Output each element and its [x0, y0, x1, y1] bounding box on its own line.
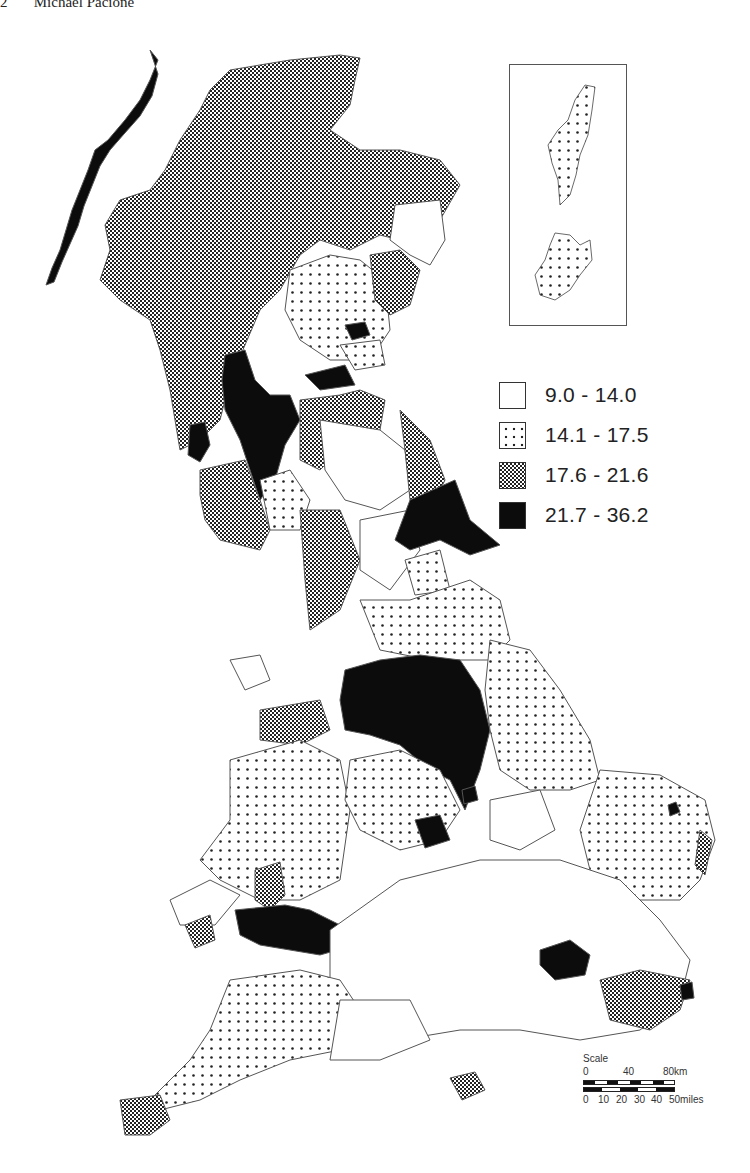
region-anglesey	[230, 655, 270, 690]
legend-item-class-2: 14.1 - 17.5	[499, 415, 649, 455]
scale-bar-miles	[583, 1087, 675, 1092]
region-dorset	[330, 1000, 430, 1060]
legend-swatch-checker	[499, 462, 526, 489]
legend-label: 17.6 - 21.6	[545, 463, 649, 487]
region-fife	[340, 340, 385, 370]
inset-islands-map	[510, 65, 625, 323]
region-forth	[305, 365, 355, 390]
region-cornwall-tip	[120, 1095, 170, 1135]
scale-tick: 0	[583, 1066, 589, 1077]
legend-item-class-1: 9.0 - 14.0	[499, 375, 649, 415]
scale-tick: 40	[623, 1066, 634, 1077]
region-leicester	[490, 790, 555, 850]
scale-title: Scale	[583, 1053, 723, 1064]
scale-km-ticks: 0 40 80km	[583, 1066, 713, 1078]
scale-tick: 30	[634, 1094, 645, 1105]
region-thanet	[680, 982, 694, 1000]
region-borders	[320, 420, 410, 510]
scale-bar-km	[583, 1080, 675, 1085]
legend-item-class-3: 17.6 - 21.6	[499, 455, 649, 495]
scale-tick: 10	[598, 1094, 609, 1105]
legend-swatch-white	[499, 382, 526, 409]
scale-tick: 0	[583, 1094, 589, 1105]
scale-tick: 80km	[663, 1066, 687, 1077]
scale-tick: 50miles	[669, 1094, 703, 1105]
region-yorkshire	[360, 580, 510, 660]
scale-tick: 20	[616, 1094, 627, 1105]
region-south-west	[130, 970, 360, 1120]
map-legend: 9.0 - 14.0 14.1 - 17.5 17.6 - 21.6 21.7 …	[499, 375, 649, 535]
scale-bar: Scale 0 40 80km 0 10 20 30 40 50miles	[583, 1053, 723, 1106]
scale-mile-ticks: 0 10 20 30 40 50miles	[583, 1094, 723, 1106]
region-kent	[600, 970, 690, 1030]
region-brecon	[255, 862, 285, 910]
region-gwynedd	[260, 700, 330, 745]
legend-label: 21.7 - 36.2	[545, 503, 649, 527]
region-lincolnshire	[485, 640, 600, 790]
legend-label: 9.0 - 14.0	[545, 383, 637, 407]
legend-swatch-dots	[499, 422, 526, 449]
orkney-shetland-inset	[509, 64, 627, 326]
legend-label: 14.1 - 17.5	[545, 423, 649, 447]
legend-item-class-4: 21.7 - 36.2	[499, 495, 649, 535]
choropleth-map	[0, 0, 750, 1173]
scale-tick: 40	[651, 1094, 662, 1105]
legend-swatch-black	[499, 502, 526, 529]
region-arran	[188, 422, 210, 462]
region-isle-of-wight	[450, 1072, 485, 1100]
region-cumbria	[300, 510, 360, 630]
